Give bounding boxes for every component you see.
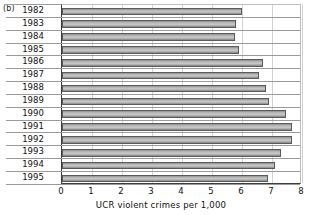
bar-row <box>62 5 300 18</box>
x-tick-label-5: 5 <box>208 186 213 196</box>
x-tick-label-7: 7 <box>268 186 273 196</box>
bar-row <box>62 18 300 31</box>
bar-1991 <box>62 123 292 131</box>
bar-row <box>62 44 300 57</box>
bar-row <box>62 172 300 185</box>
bar-1985 <box>62 46 239 54</box>
x-tick-label-3: 3 <box>148 186 153 196</box>
bar-row <box>62 133 300 146</box>
y-tick-label-1983: 1983 <box>5 17 61 30</box>
bar-row <box>62 56 300 69</box>
x-axis-title: UCR violent crimes per 1,000 <box>0 200 322 210</box>
bar-1984 <box>62 33 235 41</box>
x-axis-tick-labels: 012345678 <box>0 186 322 198</box>
x-tick-label-0: 0 <box>58 186 63 196</box>
bar-row <box>62 159 300 172</box>
bar-1986 <box>62 59 263 67</box>
x-tick-label-8: 8 <box>298 186 303 196</box>
bar-row <box>62 146 300 159</box>
violent-crime-bar-chart: (b) 198219831984198519861987198819891990… <box>0 0 322 215</box>
bar-1994 <box>62 162 275 170</box>
bar-rows <box>62 5 300 183</box>
y-tick-label-1991: 1991 <box>5 120 61 133</box>
x-tick-label-6: 6 <box>238 186 243 196</box>
gridline-8 <box>302 5 303 183</box>
bar-row <box>62 108 300 121</box>
y-tick-label-1986: 1986 <box>5 55 61 68</box>
bar-row <box>62 31 300 44</box>
x-tick-label-4: 4 <box>178 186 183 196</box>
y-tick-label-1992: 1992 <box>5 133 61 146</box>
bar-row <box>62 121 300 134</box>
y-tick-label-1990: 1990 <box>5 107 61 120</box>
bar-1988 <box>62 85 266 93</box>
y-tick-label-1989: 1989 <box>5 94 61 107</box>
bar-row <box>62 95 300 108</box>
x-tick-label-2: 2 <box>118 186 123 196</box>
y-tick-label-1985: 1985 <box>5 43 61 56</box>
bar-1995 <box>62 175 268 183</box>
y-tick-label-1993: 1993 <box>5 145 61 158</box>
bar-row <box>62 82 300 95</box>
y-tick-label-1984: 1984 <box>5 30 61 43</box>
bar-1990 <box>62 110 286 118</box>
bar-1982 <box>62 8 242 16</box>
bar-1993 <box>62 149 281 157</box>
y-tick-label-1982: 1982 <box>5 4 61 17</box>
y-tick-label-1987: 1987 <box>5 68 61 81</box>
bar-1987 <box>62 72 259 80</box>
bar-row <box>62 69 300 82</box>
bar-1989 <box>62 98 269 106</box>
plot-area <box>61 4 301 184</box>
x-tick-label-1: 1 <box>88 186 93 196</box>
y-tick-label-1994: 1994 <box>5 158 61 171</box>
y-tick-label-1988: 1988 <box>5 81 61 94</box>
bar-1983 <box>62 20 236 28</box>
y-tick-label-1995: 1995 <box>5 171 61 184</box>
bar-1992 <box>62 136 292 144</box>
